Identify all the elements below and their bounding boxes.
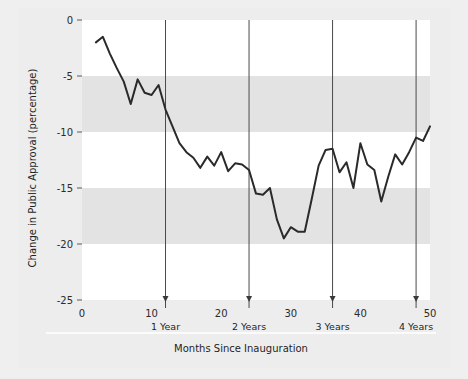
approval-line-chart: 01020304050 0-5-10-15-20-25 1 Year2 Year… xyxy=(18,8,450,368)
x-tick-label-4: 40 xyxy=(354,308,367,319)
y-tick-label-4: -20 xyxy=(57,239,73,250)
band-0 xyxy=(82,20,430,76)
y-tick-label-5: -25 xyxy=(57,295,73,306)
y-tick-label-2: -10 xyxy=(57,127,73,138)
y-axis-title: Change in Public Approval (percentage) xyxy=(27,69,38,268)
x-axis-ticks: 01020304050 xyxy=(79,308,437,319)
band-1 xyxy=(82,76,430,132)
y-axis-ticks: 0-5-10-15-20-25 xyxy=(57,15,82,306)
x-tick-label-3: 30 xyxy=(284,308,297,319)
year-marker-label-1: 2 Years xyxy=(232,321,266,332)
x-tick-label-2: 20 xyxy=(215,308,228,319)
y-tick-label-3: -15 xyxy=(57,183,73,194)
figure-container: 01020304050 0-5-10-15-20-25 1 Year2 Year… xyxy=(0,0,468,379)
y-tick-label-0: 0 xyxy=(67,15,73,26)
band-2 xyxy=(82,132,430,188)
year-marker-label-0: 1 Year xyxy=(151,321,180,332)
band-3 xyxy=(82,188,430,244)
x-tick-label-0: 0 xyxy=(79,308,85,319)
year-marker-label-3: 4 Years xyxy=(399,321,433,332)
year-marker-label-2: 3 Years xyxy=(315,321,349,332)
x-tick-label-5: 50 xyxy=(424,308,437,319)
figure-inner-panel: 01020304050 0-5-10-15-20-25 1 Year2 Year… xyxy=(18,8,450,368)
x-axis-title: Months Since Inauguration xyxy=(174,343,308,354)
x-tick-label-1: 10 xyxy=(145,308,158,319)
y-tick-label-1: -5 xyxy=(63,71,73,82)
year-marker-labels: 1 Year2 Years3 Years4 Years xyxy=(151,321,433,332)
band-4 xyxy=(82,244,430,300)
background-bands xyxy=(82,20,430,300)
